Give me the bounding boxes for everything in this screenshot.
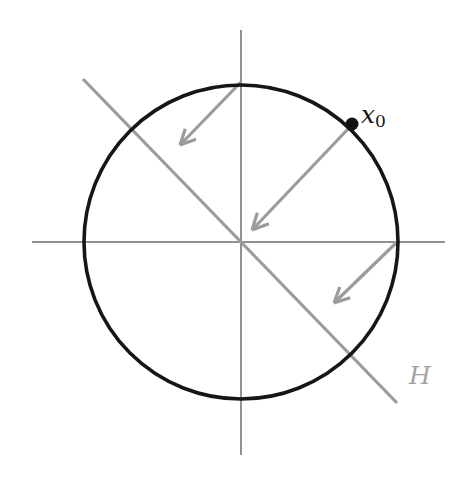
arrow-shaft: [252, 129, 348, 230]
arrow-from-top: [180, 82, 241, 145]
arrow-from-right: [334, 243, 396, 303]
point-x0-dot: [346, 118, 359, 131]
point-group: [346, 118, 359, 131]
point-x0-label: x0: [361, 102, 386, 130]
arrow-shaft: [334, 243, 396, 303]
hyperplane-H-label: H: [409, 363, 431, 388]
point-x0-label-subscript: 0: [375, 111, 386, 131]
point-x0-label-base: x: [361, 100, 375, 129]
figure-canvas: x0 H: [0, 0, 466, 477]
arrow-from-x0: [252, 129, 348, 230]
arrow-shaft: [180, 82, 241, 145]
axes-group: [32, 30, 445, 455]
circle-hyperplane-diagram: [0, 0, 466, 477]
